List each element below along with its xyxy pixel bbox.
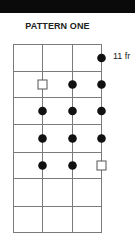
note-dot-icon bbox=[68, 80, 77, 89]
note-dot-icon bbox=[97, 134, 106, 143]
note-dot-icon bbox=[97, 107, 106, 116]
note-dot-icon bbox=[97, 54, 106, 63]
note-dot-icon bbox=[68, 107, 77, 116]
note-dot-icon bbox=[38, 134, 47, 143]
note-dot-icon bbox=[38, 161, 47, 170]
note-dot-icon bbox=[38, 107, 47, 116]
fretboard-diagram bbox=[0, 0, 135, 248]
root-square-icon bbox=[38, 80, 47, 89]
note-dot-icon bbox=[97, 80, 106, 89]
note-dot-icon bbox=[68, 161, 77, 170]
root-square-icon bbox=[97, 161, 106, 170]
fretboard-grid bbox=[13, 44, 102, 233]
note-dot-icon bbox=[68, 134, 77, 143]
